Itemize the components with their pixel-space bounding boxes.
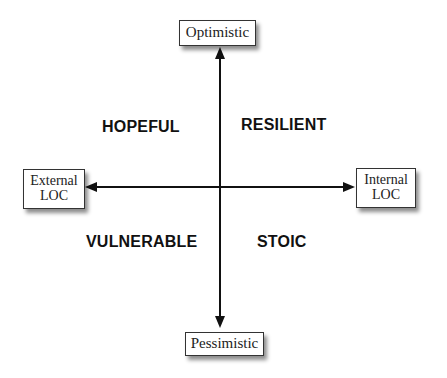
internal-loc-label-box: Internal LOC (356, 168, 416, 208)
quadrant-stoic: STOIC (257, 233, 307, 251)
arrowhead-down-icon (215, 316, 225, 328)
internal-loc-label: LOC (372, 188, 400, 203)
pessimistic-label: Pessimistic (191, 336, 259, 352)
quadrant-vulnerable: VULNERABLE (86, 233, 197, 251)
pessimistic-label-box: Pessimistic (185, 332, 264, 356)
quadrant-hopeful: HOPEFUL (102, 118, 180, 136)
arrowhead-left-icon (85, 182, 97, 192)
arrowhead-right-icon (343, 182, 355, 192)
external-loc-label: LOC (40, 189, 68, 204)
arrowhead-up-icon (215, 47, 225, 59)
optimistic-label: Optimistic (186, 25, 249, 41)
quadrant-resilient: RESILIENT (241, 116, 326, 134)
internal-label: Internal (364, 173, 408, 188)
external-label: External (30, 174, 77, 189)
external-loc-label-box: External LOC (23, 169, 85, 209)
quadrant-diagram: Optimistic Pessimistic External LOC Inte… (0, 0, 447, 378)
optimistic-label-box: Optimistic (179, 20, 256, 46)
